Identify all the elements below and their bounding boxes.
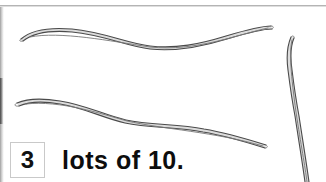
answer-text: lots of 10. xyxy=(62,146,184,175)
stick-right-vertical xyxy=(287,36,309,182)
answer-box-value: 3 xyxy=(21,148,34,172)
stick-top-horizontal xyxy=(20,26,274,50)
worksheet-page: .stick-fill { fill: #dcdcdc; } .stick-ou… xyxy=(0,0,326,182)
answer-line: 3 lots of 10. xyxy=(10,139,184,181)
answer-box[interactable]: 3 xyxy=(10,142,45,178)
